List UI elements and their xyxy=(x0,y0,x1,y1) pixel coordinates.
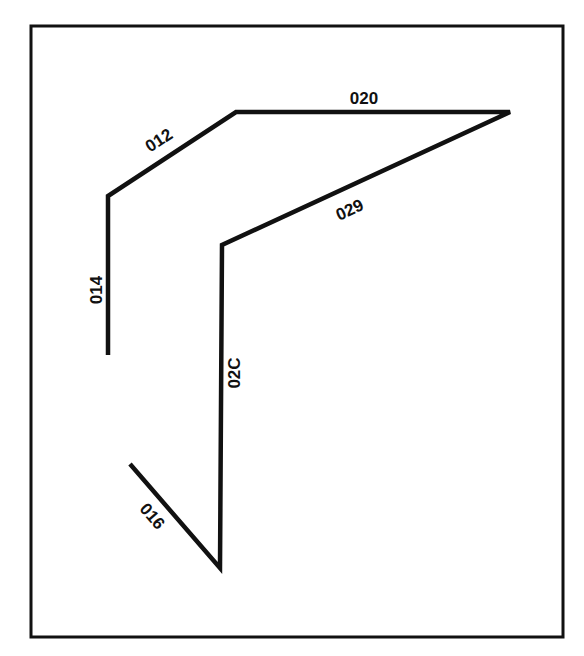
label-014: 014 xyxy=(87,275,106,304)
route-path xyxy=(108,112,510,568)
route-diagram: 014 012 020 029 02C 016 xyxy=(0,0,584,656)
segment-029[interactable] xyxy=(222,112,510,245)
segment-02C[interactable] xyxy=(220,245,222,568)
label-020: 020 xyxy=(350,89,378,108)
label-02C: 02C xyxy=(225,357,244,388)
segment-012[interactable] xyxy=(108,112,236,196)
label-029: 029 xyxy=(333,195,367,224)
